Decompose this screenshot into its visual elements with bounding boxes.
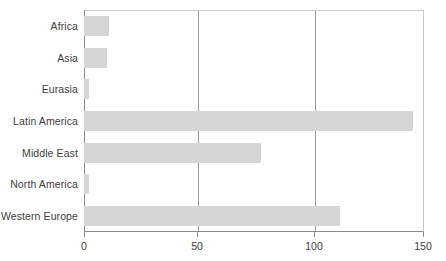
bar-eurasia [84,79,89,99]
bar-row [84,42,424,74]
bar-row [84,10,424,42]
x-axis-tick-label: 50 [191,240,203,252]
x-axis-tick [197,232,198,237]
x-axis-tick [84,232,85,237]
bar-row [84,137,424,169]
y-axis-label: Latin America [0,105,78,137]
bar-africa [84,16,109,36]
y-axis-label: Middle East [0,137,78,169]
bar-middle-east [84,143,261,163]
bar-latin-america [84,111,413,131]
y-axis-label: Asia [0,42,78,74]
bar-row [84,169,424,201]
bar-chart: Africa Asia Eurasia Latin America Middle… [0,0,446,261]
y-axis-label: North America [0,169,78,201]
bar-western-europe [84,206,340,226]
y-axis-label: Eurasia [0,73,78,105]
y-axis-label: Africa [0,10,78,42]
x-axis-tick-label: 150 [414,240,432,252]
x-axis-tick-label: 0 [81,240,87,252]
bars-layer [84,10,424,232]
y-axis-label: Western Europe [0,200,78,232]
bar-row [84,105,424,137]
x-axis-tick-label: 100 [305,240,323,252]
y-axis-labels: Africa Asia Eurasia Latin America Middle… [0,10,78,232]
bar-asia [84,48,107,68]
x-axis-tick [314,232,315,237]
bar-row [84,200,424,232]
x-axis-tick [423,232,424,237]
bar-row [84,73,424,105]
bar-north-america [84,174,89,194]
